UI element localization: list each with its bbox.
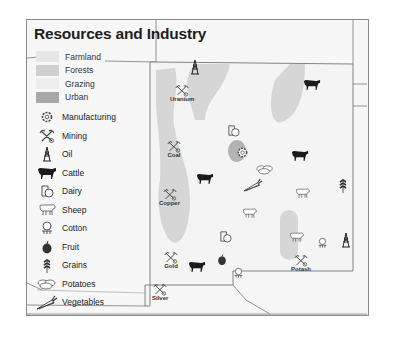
legend-grazing: Grazing [36, 77, 116, 91]
oil-derrick-icon [341, 233, 351, 248]
legend-farmland: Farmland [36, 50, 116, 64]
grains-icon [36, 258, 58, 273]
legend-potatoes: Potatoes [36, 275, 116, 294]
cattle-icon [188, 261, 206, 272]
legend-grains: Grains [36, 256, 116, 275]
legend-cattle: Cattle [36, 164, 116, 183]
fruit-icon [36, 239, 58, 254]
gear-icon [36, 110, 58, 125]
grains-icon [338, 178, 348, 193]
cotton-icon [36, 221, 58, 236]
oil-derrick-icon [36, 147, 58, 162]
cattle-icon [36, 165, 58, 180]
legend-mining: Mining [36, 127, 116, 146]
legend-cotton: Cotton [36, 219, 116, 238]
legend-fruit: Fruit [36, 238, 116, 257]
vegetables-icon [36, 295, 58, 310]
vegetables-icon [243, 178, 263, 192]
grazing-swatch [36, 78, 59, 89]
farmland-swatch [36, 51, 59, 62]
mining-site-uranium: Uranium [170, 84, 194, 102]
sheep-icon [288, 231, 305, 243]
legend-oil: Oil [36, 145, 116, 164]
cotton-icon [317, 237, 328, 249]
mining-site-coal: Coal [167, 140, 181, 158]
legend-urban: Urban [36, 91, 116, 105]
dairy-icon [36, 184, 58, 199]
fruit-icon [217, 253, 227, 266]
potatoes-icon [36, 276, 58, 291]
pick-axe-icon [36, 128, 58, 143]
cotton-icon [233, 267, 244, 279]
mining-site-gold: Gold [164, 251, 178, 269]
legend-vegetables: Vegetables [36, 293, 116, 312]
sheep-icon [36, 202, 58, 217]
map-title: Resources and Industry [34, 25, 206, 43]
cattle-icon [291, 150, 309, 161]
forests-swatch [36, 65, 59, 76]
sheep-icon [294, 187, 311, 199]
legend-sheep: Sheep [36, 201, 116, 220]
legend-forests: Forests [36, 64, 116, 78]
mining-site-copper: Copper [159, 188, 180, 206]
cattle-icon [303, 79, 321, 90]
dairy-icon [227, 124, 240, 137]
sheep-icon [241, 207, 258, 219]
legend-manufacturing: Manufacturing [36, 108, 116, 127]
dairy-icon [219, 230, 232, 243]
cattle-icon [196, 173, 214, 184]
urban-swatch [36, 92, 59, 103]
legend-dairy: Dairy [36, 182, 116, 201]
mining-site-silver: Silver [152, 283, 168, 301]
mining-site-potash: Potash [291, 254, 311, 272]
oil-derrick-icon [190, 60, 200, 75]
gear-icon [236, 146, 249, 159]
legend: Farmland Forests Grazing Urban Manufactu… [36, 50, 116, 312]
potatoes-icon [256, 164, 274, 175]
